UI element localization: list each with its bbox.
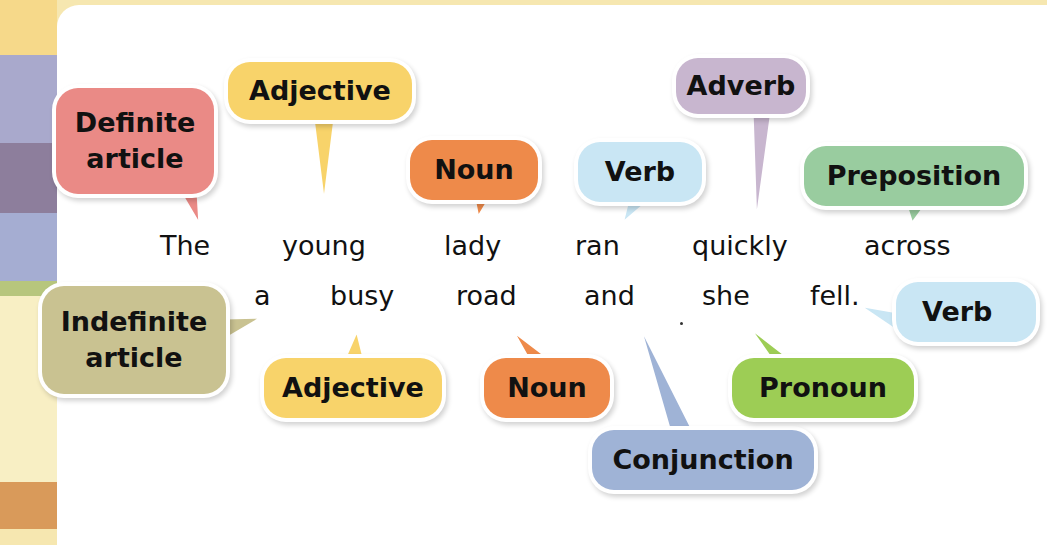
label-pronoun: Pronoun [732,358,914,418]
label-text: Pronoun [759,370,887,406]
label-text: Noun [434,152,514,188]
label-text-line2: article [61,340,208,376]
label-noun-top: Noun [410,140,538,200]
word-a: a [254,280,271,311]
label-adverb: Adverb [676,58,806,114]
word-road: road [456,280,517,311]
tail-indefinite-article [224,317,263,340]
word-she: she [702,280,750,311]
word-fell: fell. [810,280,860,311]
label-text: Verb [605,154,675,190]
label-adjective-top: Adjective [228,62,412,120]
word-lady: lady [444,230,501,261]
word-and: and [584,280,635,311]
tail-conjunction [638,321,694,432]
word-busy: busy [330,280,394,311]
tail-preposition [906,205,926,224]
label-text: Preposition [827,158,1002,194]
label-text-line1: Definite [75,105,195,141]
label-text: Adverb [687,68,796,104]
label-text: Conjunction [612,442,793,478]
label-preposition: Preposition [804,146,1024,206]
label-definite-article: Definitearticle [56,88,214,194]
label-verb-right: Verb [896,282,1036,342]
tail-noun-top [474,198,490,218]
label-conjunction: Conjunction [592,430,814,490]
tail-adjective-top [313,118,335,206]
word-across: across [864,230,951,261]
label-text-line1: Indefinite [61,304,208,340]
stray-dot [680,322,683,325]
label-indefinite-article: Indefinitearticle [42,286,226,394]
label-verb-top: Verb [578,142,702,202]
word-quickly: quickly [692,230,788,261]
label-text-line2: article [75,141,195,177]
word-the: The [160,230,210,261]
label-text: Noun [507,370,587,406]
tail-verb-right [858,305,898,332]
label-adjective-bottom: Adjective [264,358,442,418]
tail-pronoun [748,326,792,360]
label-text: Adjective [282,370,424,406]
label-text: Verb [922,294,992,330]
tail-adverb [752,110,772,227]
word-ran: ran [575,230,620,261]
label-text: Adjective [249,73,391,109]
tail-verb-top [622,200,650,224]
word-young: young [282,230,366,261]
tail-definite-article [180,192,200,226]
label-noun-bottom: Noun [484,358,610,418]
